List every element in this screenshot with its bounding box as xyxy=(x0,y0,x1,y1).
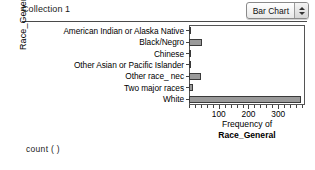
x-axis-minor-tick xyxy=(296,105,297,108)
bar-chart-graph[interactable]: Race_General American Indian or Alaska N… xyxy=(0,22,315,170)
bar[interactable] xyxy=(189,27,191,34)
x-axis-title-line2: Race_General xyxy=(189,130,305,141)
bar[interactable] xyxy=(189,50,191,57)
x-axis-tick-label: 200 xyxy=(242,109,256,119)
x-axis: 100200300 xyxy=(189,105,305,115)
category-label: White xyxy=(0,94,186,104)
bar[interactable] xyxy=(189,96,301,103)
x-axis-minor-tick xyxy=(195,105,196,108)
category-row: American Indian or Alaska Native xyxy=(0,25,305,36)
x-axis-minor-tick xyxy=(284,105,285,108)
category-label: Chinese xyxy=(0,49,186,59)
triangle-up-icon[interactable] xyxy=(299,7,305,10)
triangle-down-icon[interactable] xyxy=(299,12,305,15)
category-row: White xyxy=(0,94,305,105)
x-axis-minor-tick xyxy=(213,105,214,108)
formula-text[interactable]: count ( ) xyxy=(26,144,60,154)
x-axis-title-line1: Frequency of xyxy=(189,119,305,130)
category-rows: American Indian or Alaska NativeBlack/Ne… xyxy=(0,25,305,105)
bar[interactable] xyxy=(189,73,201,80)
x-axis-minor-tick xyxy=(290,105,291,108)
category-row: Other Asian or Pacific Islander xyxy=(0,59,305,70)
x-axis-minor-tick xyxy=(266,105,267,108)
x-axis-minor-tick xyxy=(302,105,303,108)
category-row: Black/Negro xyxy=(0,36,305,47)
category-label: Other Asian or Pacific Islander xyxy=(0,60,186,70)
x-axis-minor-tick xyxy=(254,105,255,108)
collection-title: Collection 1 xyxy=(22,4,70,14)
category-label: Two major races xyxy=(0,83,186,93)
chart-type-dropdown[interactable]: Bar Chart xyxy=(246,2,309,19)
category-label: Other race_ nec xyxy=(0,71,186,81)
category-row: Two major races xyxy=(0,82,305,93)
x-axis-minor-tick xyxy=(201,105,202,108)
category-row: Other race_ nec xyxy=(0,71,305,82)
x-axis-minor-tick xyxy=(207,105,208,108)
category-row: Chinese xyxy=(0,48,305,59)
x-axis-minor-tick xyxy=(237,105,238,108)
window-header: Collection 1 Bar Chart xyxy=(0,0,315,22)
chart-type-selected-value: Bar Chart xyxy=(247,3,294,18)
bar[interactable] xyxy=(189,39,202,46)
x-axis-minor-tick xyxy=(272,105,273,108)
category-label: Black/Negro xyxy=(0,37,186,47)
x-axis-minor-tick xyxy=(260,105,261,108)
bar[interactable] xyxy=(189,84,193,91)
x-axis-minor-tick xyxy=(189,105,190,108)
x-axis-title: Frequency of Race_General xyxy=(189,119,305,141)
bar[interactable] xyxy=(189,61,191,68)
x-axis-tick-label: 300 xyxy=(271,109,285,119)
x-axis-minor-tick xyxy=(243,105,244,108)
chart-type-stepper[interactable] xyxy=(294,3,308,18)
category-label: American Indian or Alaska Native xyxy=(0,26,186,36)
x-axis-minor-tick xyxy=(225,105,226,108)
x-axis-minor-tick xyxy=(231,105,232,108)
x-axis-tick-label: 100 xyxy=(212,109,226,119)
